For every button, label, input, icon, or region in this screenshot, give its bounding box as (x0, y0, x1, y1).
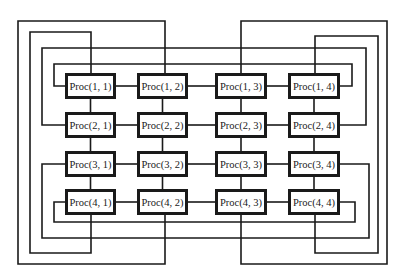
processor-label: Proc(2, 4) (293, 120, 335, 131)
processor-label: Proc(2, 2) (142, 120, 184, 131)
processor-label: Proc(3, 3) (220, 159, 262, 170)
processor-label: Proc(4, 4) (293, 197, 335, 208)
processor-node-2-2: Proc(2, 2) (137, 112, 188, 138)
processor-label: Proc(3, 1) (70, 159, 112, 170)
torus-diagram: Proc(1, 1)Proc(1, 2)Proc(1, 3)Proc(1, 4)… (0, 0, 405, 279)
processor-label: Proc(1, 1) (70, 81, 112, 92)
processor-label: Proc(4, 3) (220, 197, 262, 208)
processor-node-4-2: Proc(4, 2) (137, 189, 188, 215)
processor-node-4-3: Proc(4, 3) (215, 189, 267, 215)
processor-label: Proc(4, 2) (142, 197, 184, 208)
processor-node-4-1: Proc(4, 1) (65, 189, 116, 215)
processor-node-3-3: Proc(3, 3) (215, 151, 267, 177)
processor-node-2-4: Proc(2, 4) (288, 112, 340, 138)
processor-node-3-4: Proc(3, 4) (288, 151, 340, 177)
wrap-link-col-1 (30, 32, 91, 253)
processor-node-1-1: Proc(1, 1) (65, 73, 116, 99)
processor-node-1-3: Proc(1, 3) (215, 73, 267, 99)
processor-label: Proc(4, 1) (70, 197, 112, 208)
processor-node-1-2: Proc(1, 2) (137, 73, 188, 99)
processor-node-3-2: Proc(3, 2) (137, 151, 188, 177)
processor-label: Proc(1, 3) (220, 81, 262, 92)
processor-node-1-4: Proc(1, 4) (288, 73, 340, 99)
processor-node-2-1: Proc(2, 1) (65, 112, 116, 138)
processor-label: Proc(1, 2) (142, 81, 184, 92)
interconnect-links (0, 0, 405, 279)
processor-node-3-1: Proc(3, 1) (65, 151, 116, 177)
processor-label: Proc(3, 4) (293, 159, 335, 170)
processor-node-2-3: Proc(2, 3) (215, 112, 267, 138)
processor-label: Proc(2, 3) (220, 120, 262, 131)
processor-node-4-4: Proc(4, 4) (288, 189, 340, 215)
processor-label: Proc(2, 1) (70, 120, 112, 131)
processor-label: Proc(1, 4) (293, 81, 335, 92)
processor-label: Proc(3, 2) (142, 159, 184, 170)
